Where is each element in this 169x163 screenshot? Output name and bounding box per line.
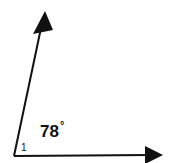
terminal-ray-upward — [14, 28, 41, 156]
degree-symbol: ° — [60, 119, 64, 131]
angle-measure-label: 78 — [40, 122, 59, 141]
right-arrowhead — [145, 146, 163, 163]
angle-diagram-canvas: 78 ° 1 — [0, 0, 169, 163]
angle-figure-svg: 78 ° 1 — [0, 0, 169, 163]
up-arrowhead — [33, 11, 53, 34]
angle-name-label: 1 — [21, 142, 27, 153]
initial-ray-horizontal — [14, 155, 150, 156]
